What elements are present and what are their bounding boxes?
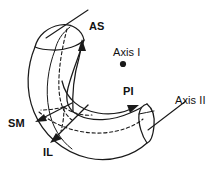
hidden-edge-lumen-arc (64, 107, 92, 115)
tube-outer-contour (28, 47, 147, 160)
label-pi: PI (123, 86, 134, 97)
hidden-edge-il-branch (61, 107, 64, 131)
label-axis-ii: Axis II (175, 95, 206, 106)
label-sm: SM (8, 118, 25, 129)
sm-direction-arrow-shaft (41, 103, 72, 119)
tube-body-group (28, 25, 154, 160)
diagram-canvas: AS Axis I PI Axis II SM IL (0, 0, 224, 170)
tube-inferior-end-face (139, 104, 154, 143)
axis-i-point-marker (120, 61, 126, 67)
diagram-svg (0, 0, 224, 170)
label-il: IL (43, 147, 53, 158)
label-axis-i: Axis I (113, 47, 141, 58)
label-as: AS (89, 21, 104, 32)
